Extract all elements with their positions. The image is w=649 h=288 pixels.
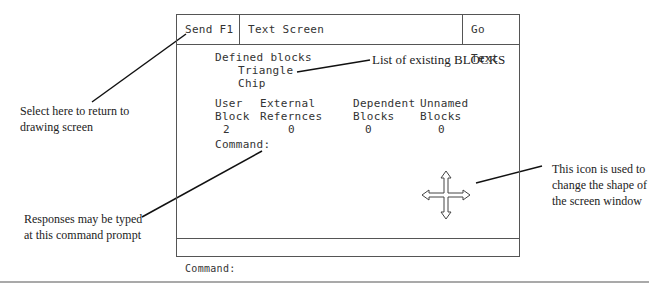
text-screen-window: Send F1 Text Screen Go Text Defined bloc… bbox=[176, 14, 520, 257]
annotation-resize-icon: This icon is used to change the shape of… bbox=[552, 161, 647, 209]
defined-blocks-heading: Defined blocks bbox=[215, 51, 312, 64]
four-way-arrow-icon[interactable] bbox=[420, 169, 472, 221]
summary-col-user-block: User Block 2 bbox=[215, 97, 250, 136]
send-f1-button[interactable]: Send F1 bbox=[177, 15, 239, 44]
summary-col-external-refs: External Refernces 0 bbox=[260, 97, 322, 136]
block-item-triangle: Triangle bbox=[238, 64, 293, 77]
window-title: Text Screen bbox=[240, 15, 462, 44]
annotation-list-blocks: List of existing BLOCKS bbox=[372, 52, 505, 68]
bottom-command-prompt[interactable]: Command: bbox=[185, 263, 236, 274]
block-item-chip: Chip bbox=[238, 77, 266, 90]
command-input-area[interactable] bbox=[177, 239, 519, 256]
go-text-button[interactable]: Go Text bbox=[463, 15, 519, 44]
annotation-responses: Responses may be typed at this command p… bbox=[24, 211, 144, 243]
inner-command-prompt[interactable]: Command: bbox=[215, 138, 270, 151]
annotation-select-here: Select here to return to drawing screen bbox=[20, 103, 170, 135]
title-bar: Send F1 Text Screen Go Text bbox=[177, 15, 519, 45]
summary-col-unnamed-blocks: Unnamed Blocks 0 bbox=[420, 97, 468, 136]
summary-col-dependent-blocks: Dependent Blocks 0 bbox=[353, 97, 415, 136]
